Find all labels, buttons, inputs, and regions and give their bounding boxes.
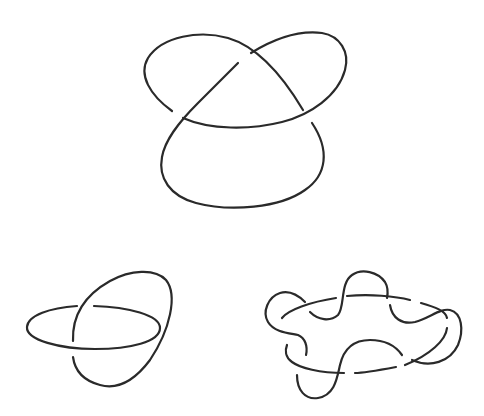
trefoil-knot (144, 32, 346, 207)
ring-knot-with-loops (266, 271, 462, 398)
hopf-link (27, 272, 172, 386)
knot-figure (0, 0, 484, 416)
